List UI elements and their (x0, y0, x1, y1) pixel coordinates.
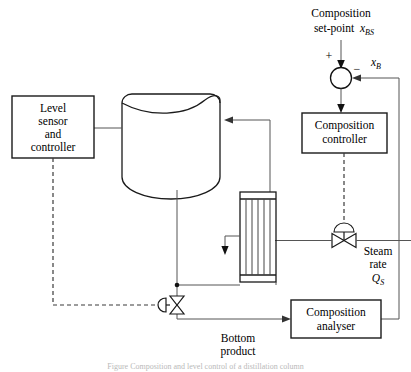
composition-analyser-label-line1: Composition (306, 306, 366, 319)
sum-to-controller-line (337, 89, 345, 114)
steam-control-valve[interactable] (332, 223, 356, 248)
setpoint-sub: BS (365, 28, 374, 37)
bottom-product-label-line2: product (220, 345, 256, 358)
setpoint-input-arrow (337, 40, 345, 69)
condensate-drain-line (221, 236, 240, 255)
figure-caption: Figure Composition and level control of … (0, 361, 411, 372)
composition-controller-label-line2: controller (322, 133, 367, 145)
setpoint-label-line1: Composition (311, 7, 371, 20)
distillation-column-vessel (122, 94, 220, 199)
steam-rate-sub: S (380, 278, 384, 287)
feedback-sub: B (376, 62, 381, 71)
vapour-return-line (224, 116, 270, 192)
shell-and-tube-reboiler (240, 192, 276, 282)
steam-rate-label-line1: Steam (364, 245, 393, 257)
setpoint-label-line2: set-point (314, 22, 355, 35)
level-controller-label-line2: sensor (38, 115, 68, 127)
level-controller-label-line4: controller (31, 141, 76, 153)
composition-analyser-label-line2: analyser (317, 320, 355, 333)
setpoint-variable: xBS (359, 22, 374, 37)
level-controller-label-line1: Level (40, 102, 66, 114)
composition-controller-label-line1: Composition (315, 119, 375, 132)
steam-rate-label-line2: rate (369, 258, 386, 270)
feedback-variable: xB (370, 56, 381, 71)
bottoms-control-valve[interactable] (158, 296, 184, 314)
bottom-product-label-line1: Bottom (221, 332, 256, 344)
pfd-canvas: + − Composition controller (0, 0, 411, 372)
process-diagram: + − Composition controller (0, 0, 411, 372)
summing-junction (331, 68, 352, 89)
bottoms-piping (175, 190, 291, 323)
steam-rate-symbol: QS (372, 272, 384, 287)
level-controller-to-valve-signal (53, 158, 162, 305)
level-controller-label-line3: and (45, 128, 62, 140)
minus-sign-label: − (354, 62, 361, 76)
plus-sign-label: + (326, 49, 333, 63)
